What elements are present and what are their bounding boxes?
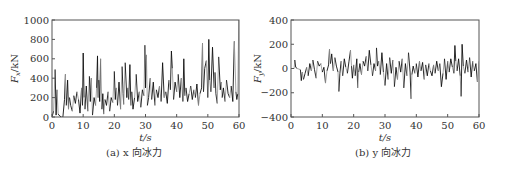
y-tick-label: −400 <box>261 112 288 123</box>
x-tick-label: 30 <box>379 120 392 131</box>
y-axis-label: Fx/kN <box>9 54 22 84</box>
y-tick-label: −200 <box>261 87 288 98</box>
data-series <box>52 0 239 117</box>
data-series <box>291 44 479 99</box>
chart-panel-y-force: 0102030405060−400−2000200400t/sFy/kN (b)… <box>253 0 506 169</box>
y-tick-label: 400 <box>269 15 288 26</box>
y-tick-label: 200 <box>269 39 288 50</box>
y-axis-label: Fy/kN <box>252 54 265 84</box>
chart-caption-b: (b) y 向冰力 <box>355 144 411 159</box>
x-tick-label: 30 <box>139 120 152 131</box>
x-tick-label: 20 <box>347 120 360 131</box>
x-tick-label: 0 <box>49 120 55 131</box>
x-tick-label: 0 <box>288 120 294 131</box>
chart-caption-a: (a) x 向冰力 <box>106 144 162 159</box>
plot-frame <box>291 20 479 117</box>
y-tick-label: 600 <box>30 53 49 64</box>
x-axis-label: t/s <box>379 132 392 143</box>
x-tick-label: 50 <box>441 120 454 131</box>
x-tick-label: 10 <box>316 120 329 131</box>
x-tick-label: 10 <box>77 120 90 131</box>
x-tick-label: 40 <box>410 120 423 131</box>
chart-panel-x-force: 010203040506002004006008001000t/sFx/kN (… <box>0 0 253 169</box>
y-tick-label: 1000 <box>24 15 49 26</box>
x-tick-label: 60 <box>473 120 486 131</box>
y-tick-label: 0 <box>282 63 288 74</box>
y-tick-label: 400 <box>30 73 49 84</box>
y-tick-label: 200 <box>30 92 49 103</box>
x-tick-label: 40 <box>170 120 183 131</box>
x-tick-label: 60 <box>233 120 246 131</box>
x-axis-label: t/s <box>139 132 152 143</box>
y-tick-label: 0 <box>43 112 49 123</box>
x-tick-label: 50 <box>201 120 214 131</box>
x-tick-label: 20 <box>108 120 121 131</box>
y-tick-label: 800 <box>30 34 49 45</box>
